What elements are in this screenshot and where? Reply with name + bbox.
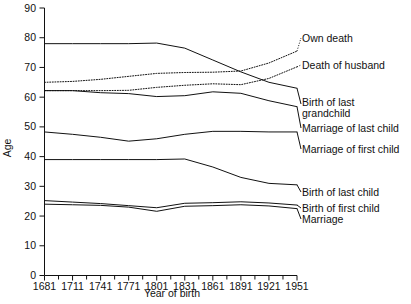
series-label-birth-of-last-child: Birth of last child xyxy=(302,187,379,199)
y-tick-label: 40 xyxy=(24,150,36,162)
series-line-birth-of-first-child xyxy=(45,201,298,208)
data-series-group xyxy=(45,43,298,211)
leader-line-birth-of-last-grandchild xyxy=(297,88,301,104)
y-tick-label: 90 xyxy=(24,2,36,14)
leader-line-marriage-of-first-child xyxy=(297,132,301,149)
x-tick-label: 1861 xyxy=(201,280,225,292)
series-label-own-death: Own death xyxy=(302,33,353,45)
y-axis-ticks: 0102030405060708090 xyxy=(24,2,44,282)
series-label-death-of-husband: Death of husband xyxy=(302,60,385,72)
leader-line-marriage xyxy=(297,209,301,219)
x-tick-label: 1891 xyxy=(229,280,253,292)
y-tick-label: 30 xyxy=(24,180,36,192)
leader-line-birth-of-first-child xyxy=(297,205,301,208)
series-line-birth-of-last-child xyxy=(45,159,298,185)
y-tick-label: 10 xyxy=(24,239,36,251)
axis-lines xyxy=(45,8,298,276)
series-label-marriage-of-last-child: Marriage of last child xyxy=(302,123,399,135)
series-line-marriage-of-last-child xyxy=(45,91,298,107)
y-tick-label: 60 xyxy=(24,91,36,103)
leader-line-own-death xyxy=(297,38,301,51)
leader-line-birth-of-last-child xyxy=(297,185,301,192)
y-axis-title: Age xyxy=(1,139,13,158)
x-tick-label: 1951 xyxy=(285,280,309,292)
series-label-marriage: Marriage xyxy=(302,214,343,226)
x-tick-label: 1711 xyxy=(61,280,84,292)
x-tick-label: 1681 xyxy=(33,280,57,292)
x-axis-title: Year of birth xyxy=(144,287,200,299)
leader-line-death-of-husband xyxy=(297,65,301,67)
x-tick-label: 1741 xyxy=(89,280,113,292)
x-tick-label: 1771 xyxy=(117,280,141,292)
chart-figure: 0102030405060708090 16811711174117711801… xyxy=(0,0,411,304)
series-line-own-death xyxy=(45,51,298,82)
y-tick-label: 80 xyxy=(24,31,36,43)
series-line-marriage-of-first-child xyxy=(45,131,298,141)
y-tick-label: 70 xyxy=(24,61,36,73)
y-tick-label: 50 xyxy=(24,120,36,132)
leader-lines-group xyxy=(297,38,301,219)
y-tick-label: 20 xyxy=(24,210,36,222)
x-tick-label: 1921 xyxy=(257,280,281,292)
series-label-marriage-of-first-child: Marriage of first child xyxy=(302,144,399,156)
leader-line-marriage-of-last-child xyxy=(297,107,301,128)
series-label-birth-of-last-grandchild-line2: grandchild xyxy=(302,108,350,120)
